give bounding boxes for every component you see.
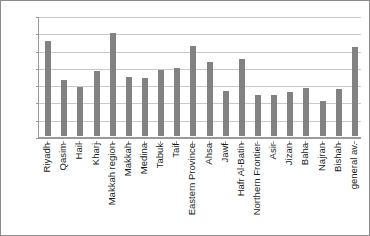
x-tick: Jizan: [281, 141, 297, 235]
x-tick: Hail: [71, 141, 87, 235]
bar-slot[interactable]: [105, 17, 121, 136]
y-tick-mark: [36, 17, 39, 18]
bar[interactable]: [239, 59, 245, 136]
y-tick-mark: [36, 121, 39, 122]
bar[interactable]: [271, 95, 277, 136]
x-tick-label: Najran: [317, 143, 327, 171]
bar-slot[interactable]: [315, 17, 331, 136]
x-tick-label: Taif: [172, 143, 182, 158]
x-tick-label: Riyadh: [42, 143, 52, 173]
x-tick: Qasim: [55, 141, 71, 235]
bar-slot[interactable]: [56, 17, 72, 136]
gridline: [39, 138, 361, 139]
x-tick: Tabuk: [152, 141, 168, 235]
bar-slot[interactable]: [202, 17, 218, 136]
x-axis-labels: RiyadhQasimHailKharjMakkah regionMakkahM…: [39, 141, 362, 235]
bar-chart-figure: 7,0006,0005,0004,0003,0002,0001,0000 Riy…: [0, 0, 370, 236]
bar[interactable]: [352, 47, 358, 136]
bar-slot[interactable]: [137, 17, 153, 136]
y-tick-mark: [36, 34, 39, 35]
bar[interactable]: [110, 33, 116, 136]
y-tick-mark: [36, 69, 39, 70]
bar[interactable]: [158, 70, 164, 136]
x-tick-label: Kharj: [91, 143, 101, 165]
x-tick-label: Jizan: [285, 143, 295, 165]
x-tick-label: Northern Frontier: [252, 143, 262, 215]
bar[interactable]: [287, 92, 293, 136]
x-tick-label: Jawf: [220, 143, 230, 163]
bar[interactable]: [142, 78, 148, 136]
bar[interactable]: [223, 91, 229, 136]
bar[interactable]: [336, 89, 342, 136]
x-tick: Northern Frontier: [249, 141, 265, 235]
x-tick-label: Qasim: [58, 143, 68, 170]
bar-slot[interactable]: [121, 17, 137, 136]
bar[interactable]: [77, 87, 83, 136]
y-tick-mark: [36, 52, 39, 53]
bar-slot[interactable]: [282, 17, 298, 136]
y-tick-mark: [36, 103, 39, 104]
x-tick-label: Ahsa: [204, 143, 214, 165]
bar-slot[interactable]: [169, 17, 185, 136]
bar[interactable]: [320, 101, 326, 136]
bar[interactable]: [174, 68, 180, 136]
bar[interactable]: [126, 77, 132, 136]
x-tick: Ahsa: [201, 141, 217, 235]
bar[interactable]: [94, 71, 100, 136]
x-tick-label: Makkah: [123, 143, 133, 176]
x-tick: Medina: [136, 141, 152, 235]
x-tick: Bishah: [330, 141, 346, 235]
bar-slot[interactable]: [250, 17, 266, 136]
bar-slot[interactable]: [347, 17, 363, 136]
x-tick: general av.: [346, 141, 362, 235]
x-tick: Eastern Province: [184, 141, 200, 235]
y-tick-mark: [36, 138, 39, 139]
bar-slot[interactable]: [72, 17, 88, 136]
x-tick-label: Hafr Al-Batin: [236, 143, 246, 196]
x-tick-label: Tabuk: [155, 143, 165, 168]
x-tick-label: Bishah: [333, 143, 343, 172]
bar[interactable]: [255, 95, 261, 136]
x-tick-label: Medina: [139, 143, 149, 174]
x-tick-label: Makkah region: [107, 143, 117, 205]
bar-slot[interactable]: [298, 17, 314, 136]
bar[interactable]: [207, 62, 213, 136]
x-tick: Kharj: [87, 141, 103, 235]
bar-slot[interactable]: [40, 17, 56, 136]
x-tick-label: Asir: [268, 143, 278, 159]
x-tick-label: general av.: [349, 143, 359, 189]
bar-slot[interactable]: [266, 17, 282, 136]
bar-slot[interactable]: [234, 17, 250, 136]
bar-series: [40, 17, 361, 136]
x-tick-label: Hail: [75, 143, 85, 159]
bar-slot[interactable]: [185, 17, 201, 136]
bar[interactable]: [61, 80, 67, 136]
plot-area: [38, 17, 361, 138]
x-tick: Riyadh: [39, 141, 55, 235]
x-tick: Jawf: [217, 141, 233, 235]
x-tick: Najran: [314, 141, 330, 235]
bar-slot[interactable]: [218, 17, 234, 136]
bar[interactable]: [190, 46, 196, 136]
bar-slot[interactable]: [88, 17, 104, 136]
x-tick: Baha: [297, 141, 313, 235]
bar[interactable]: [303, 88, 309, 136]
x-tick: Makkah region: [104, 141, 120, 235]
x-tick-label: Eastern Province: [188, 143, 198, 215]
bar-slot[interactable]: [331, 17, 347, 136]
bar-slot[interactable]: [153, 17, 169, 136]
x-tick-label: Baha: [301, 143, 311, 165]
x-tick: Hafr Al-Batin: [233, 141, 249, 235]
y-tick-mark: [36, 86, 39, 87]
x-tick: Taif: [168, 141, 184, 235]
x-tick: Makkah: [120, 141, 136, 235]
bar[interactable]: [45, 41, 51, 136]
x-tick: Asir: [265, 141, 281, 235]
